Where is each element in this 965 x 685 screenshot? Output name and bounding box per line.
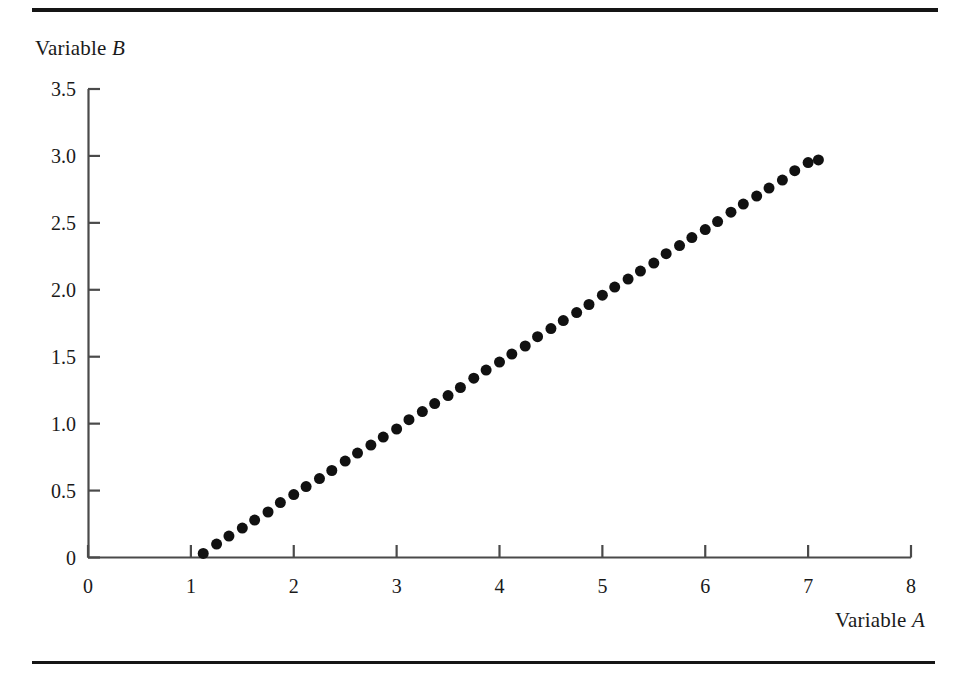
data-point	[198, 548, 209, 559]
data-point	[340, 456, 351, 467]
x-axis-tick-label: 8	[881, 576, 941, 596]
data-point	[506, 349, 517, 360]
data-point	[378, 432, 389, 443]
data-point	[597, 290, 608, 301]
data-point	[571, 307, 582, 318]
y-axis-tick-label: 2.5	[16, 213, 76, 233]
data-point	[288, 489, 299, 500]
x-axis-ticks	[88, 545, 911, 558]
data-point	[623, 274, 634, 285]
data-point	[249, 515, 260, 526]
data-point	[223, 531, 234, 542]
data-point	[545, 323, 556, 334]
data-point	[417, 406, 428, 417]
data-point	[777, 175, 788, 186]
data-point	[674, 240, 685, 251]
data-point	[635, 266, 646, 277]
data-point	[481, 365, 492, 376]
x-axis-tick-label: 4	[470, 576, 530, 596]
data-point	[789, 165, 800, 176]
x-axis-tick-label: 6	[675, 576, 735, 596]
data-point	[558, 315, 569, 326]
x-axis-tick-label: 3	[367, 576, 427, 596]
y-axis-tick-label: 1.5	[16, 347, 76, 367]
x-axis-tick-label: 2	[264, 576, 324, 596]
y-axis-tick-label: 0.5	[16, 481, 76, 501]
x-axis-tick-label: 7	[778, 576, 838, 596]
data-point	[314, 473, 325, 484]
data-point-group	[198, 154, 824, 559]
axis-lines	[88, 89, 911, 558]
data-point	[429, 398, 440, 409]
data-point	[686, 232, 697, 243]
data-point	[520, 341, 531, 352]
y-axis-tick-label: 0	[16, 548, 76, 568]
data-point	[725, 207, 736, 218]
y-axis-tick-label: 3.5	[16, 79, 76, 99]
data-point	[712, 216, 723, 227]
y-axis-tick-label: 3.0	[16, 146, 76, 166]
data-point	[468, 373, 479, 384]
data-point	[455, 382, 466, 393]
x-axis-tick-label: 1	[161, 576, 221, 596]
data-point	[609, 282, 620, 293]
y-axis-tick-label: 1.0	[16, 414, 76, 434]
data-point	[813, 154, 824, 165]
data-point	[326, 465, 337, 476]
data-point	[532, 331, 543, 342]
data-point	[301, 481, 312, 492]
data-point	[494, 357, 505, 368]
data-point	[403, 414, 414, 425]
data-point	[391, 423, 402, 434]
data-point	[237, 523, 248, 534]
data-point	[803, 157, 814, 168]
data-point	[263, 506, 274, 517]
y-axis-ticks	[88, 89, 100, 558]
data-point	[648, 258, 659, 269]
y-axis-tick-label: 2.0	[16, 280, 76, 300]
data-point	[738, 199, 749, 210]
data-point	[275, 497, 286, 508]
data-point	[751, 191, 762, 202]
data-point	[764, 183, 775, 194]
data-point	[661, 248, 672, 259]
data-point	[365, 440, 376, 451]
x-axis-tick-label: 0	[58, 576, 118, 596]
data-point	[700, 224, 711, 235]
data-point	[211, 539, 222, 550]
data-point	[443, 390, 454, 401]
x-axis-tick-label: 5	[572, 576, 632, 596]
data-point	[352, 448, 363, 459]
data-point	[584, 299, 595, 310]
